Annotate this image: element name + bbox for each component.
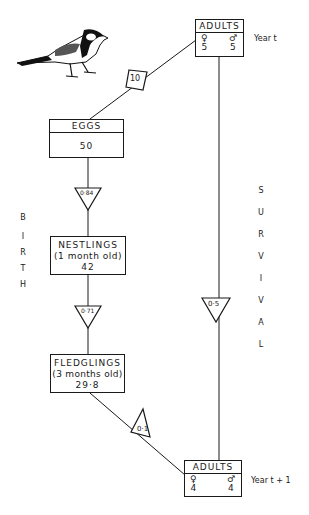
letter: L: [259, 334, 263, 356]
adults-title: ADULTS: [196, 20, 243, 33]
nestlings-title: NESTLINGS: [51, 240, 125, 251]
eggs-title: EGGS: [50, 120, 123, 133]
adults-year-t1-box: ADULTS ♀4 ♂4: [184, 460, 242, 497]
nestlings-box: NESTLINGS (1 month old) 42: [50, 236, 126, 275]
eggs-value: 50: [50, 133, 123, 159]
nestlings-age: (1 month old): [51, 251, 125, 262]
adult-survival-value: 0·5: [208, 300, 219, 308]
male-count: 5: [230, 43, 237, 52]
letter: I: [22, 229, 24, 245]
letter: R: [258, 224, 264, 246]
fledglings-title: FLEDGLINGS: [51, 358, 124, 369]
letter: A: [258, 312, 263, 334]
fecundity-value: 10: [130, 74, 140, 83]
adults-title: ADULTS: [185, 461, 241, 474]
letter: T: [21, 261, 26, 277]
egg-survival-value: 0·84: [80, 189, 93, 196]
birth-label: B I R T H: [20, 207, 26, 293]
letter: B: [20, 207, 26, 229]
year-t-label: Year t: [254, 34, 277, 43]
female-count: 5: [201, 43, 208, 52]
letter: V: [258, 246, 263, 268]
bird-illustration-icon: [17, 29, 108, 77]
letter: H: [20, 277, 26, 293]
letter: U: [258, 202, 264, 224]
survival-label: S U R V I V A L: [258, 180, 264, 356]
adults-year-t-box: ADULTS ♀5 ♂5: [195, 19, 244, 57]
fledglings-age: (3 months old): [51, 369, 124, 380]
year-t1-label: Year t + 1: [251, 476, 291, 485]
female-count: 4: [190, 484, 197, 493]
letter: S: [258, 180, 263, 202]
nestlings-value: 42: [51, 262, 125, 273]
letter: R: [20, 245, 26, 261]
letter: V: [258, 290, 263, 312]
letter: I: [260, 268, 262, 290]
nestling-survival-value: 0·71: [81, 307, 94, 314]
eggs-box: EGGS 50: [49, 119, 124, 158]
fledgling-survival-value: 0·1: [137, 425, 148, 433]
fledglings-value: 29·8: [51, 380, 124, 391]
fledglings-box: FLEDGLINGS (3 months old) 29·8: [50, 354, 125, 393]
male-count: 4: [228, 484, 235, 493]
